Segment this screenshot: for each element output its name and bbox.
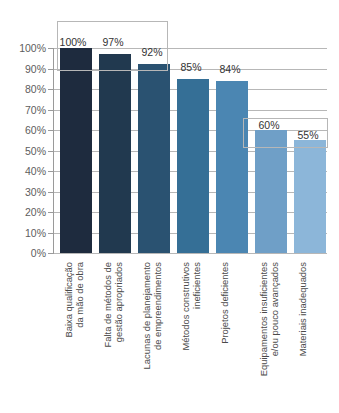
category-label-2-line1: Lacunas de planejamento: [141, 262, 152, 369]
ytick-label-10: 10%: [0, 227, 46, 239]
ytick-label-80: 80%: [0, 83, 46, 95]
highlight-box-top-group: [57, 21, 168, 71]
ytick-label-70: 70%: [0, 104, 46, 116]
category-label-1-line1: Falta de métodos de: [102, 262, 113, 347]
category-label-4: Projetos deficientes: [219, 262, 230, 344]
category-label-6-line1: Materiais inadequados: [297, 262, 308, 356]
ytick-label-30: 30%: [0, 186, 46, 198]
bar-2[interactable]: [138, 64, 170, 253]
category-label-3: Métodos construtivos ineficientes: [180, 262, 202, 351]
category-label-5-line2: e/ou pouco avançados: [269, 262, 280, 376]
bar-3[interactable]: [177, 79, 209, 253]
bar-1[interactable]: [99, 54, 131, 253]
category-label-2: Lacunas de planejamento de empreendiment…: [141, 262, 163, 369]
category-label-1-line2: gestão apropriados: [113, 262, 124, 347]
category-label-0-line1: Baixa qualificação: [63, 262, 74, 338]
category-label-0-line2: da mão de obra: [74, 262, 85, 338]
ytick-label-0: 0%: [0, 247, 46, 259]
category-label-5: Equipamentos insuficientes e/ou pouco av…: [258, 262, 280, 376]
ytick-label-50: 50%: [0, 145, 46, 157]
category-label-3-line2: ineficientes: [191, 262, 202, 351]
category-label-2-line2: de empreendimentos: [152, 262, 163, 369]
category-label-3-line1: Métodos construtivos: [180, 262, 191, 351]
category-label-0: Baixa qualificação da mão de obra: [63, 262, 85, 338]
bar-5[interactable]: [255, 130, 287, 253]
category-label-6: Materiais inadequados: [297, 262, 308, 356]
category-label-1: Falta de métodos de gestão apropriados: [102, 262, 124, 347]
category-label-5-line1: Equipamentos insuficientes: [258, 262, 269, 376]
gridline-0: [53, 253, 327, 254]
ytick-label-90: 90%: [0, 63, 46, 75]
ytick-label-100: 100%: [0, 42, 46, 54]
ytick-mark-0: [48, 253, 53, 254]
bar-chart: #chart-root > [data-name="y-axis-gridlin…: [0, 0, 339, 413]
bar-value-4: 84%: [212, 63, 248, 75]
ytick-label-40: 40%: [0, 165, 46, 177]
highlight-box-bottom-group: [243, 118, 328, 148]
bar-value-3: 85%: [173, 61, 209, 73]
bar-4[interactable]: [216, 81, 248, 253]
ytick-label-60: 60%: [0, 124, 46, 136]
bar-0[interactable]: [60, 48, 92, 253]
category-label-4-line1: Projetos deficientes: [219, 262, 230, 344]
bar-6[interactable]: [294, 140, 326, 253]
ytick-label-20: 20%: [0, 206, 46, 218]
plot-area: [53, 48, 327, 253]
